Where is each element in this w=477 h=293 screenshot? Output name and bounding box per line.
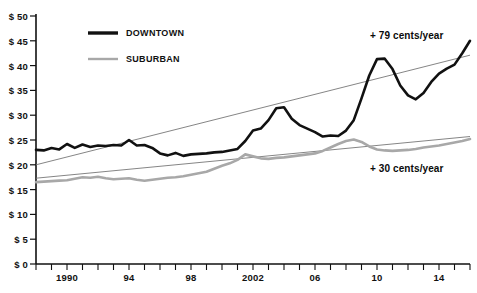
y-tick-group bbox=[30, 16, 36, 264]
y-axis-tick-label: $ 45 bbox=[0, 35, 28, 46]
trendline-group bbox=[36, 55, 470, 178]
x-axis-tick-label: 06 bbox=[310, 272, 321, 283]
legend-label-suburban: SUBURBAN bbox=[126, 54, 180, 64]
y-axis-tick-label: $ 15 bbox=[0, 184, 28, 195]
annotation-1: + 30 cents/year bbox=[370, 163, 444, 174]
x-axis-tick-label: 98 bbox=[186, 272, 197, 283]
x-axis-tick-label: 94 bbox=[124, 272, 135, 283]
y-axis-tick-label: $ 0 bbox=[0, 259, 28, 270]
downtown-trend bbox=[36, 55, 470, 165]
y-axis-tick-label: $ 10 bbox=[0, 209, 28, 220]
chart-canvas bbox=[0, 0, 477, 293]
y-axis-tick-label: $ 5 bbox=[0, 234, 28, 245]
x-axis-tick-label: 14 bbox=[434, 272, 445, 283]
legend-label-downtown: DOWNTOWN bbox=[126, 28, 184, 38]
axis-group bbox=[36, 14, 470, 264]
y-axis-tick-label: $ 40 bbox=[0, 60, 28, 71]
y-axis-tick-label: $ 20 bbox=[0, 159, 28, 170]
annotation-0: + 79 cents/year bbox=[370, 30, 444, 41]
price-trend-chart: $ 0$ 5$ 10$ 15$ 20$ 25$ 30$ 35$ 40$ 45$ … bbox=[0, 0, 477, 293]
y-axis-tick-label: $ 30 bbox=[0, 110, 28, 121]
y-axis-tick-label: $ 50 bbox=[0, 11, 28, 22]
y-axis-tick-label: $ 25 bbox=[0, 135, 28, 146]
x-axis-tick-label: 2002 bbox=[242, 272, 264, 283]
x-axis-tick-label: 1990 bbox=[56, 272, 78, 283]
x-tick-group bbox=[36, 264, 470, 270]
y-axis-tick-label: $ 35 bbox=[0, 85, 28, 96]
data-series-group bbox=[36, 41, 470, 182]
legend-swatch-group bbox=[88, 33, 118, 59]
x-axis-tick-label: 10 bbox=[372, 272, 383, 283]
